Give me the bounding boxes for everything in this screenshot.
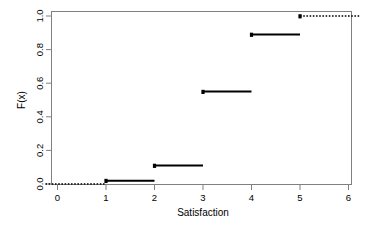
y-tick-4: 0.8 [34,43,52,56]
ecdf-jump-point [153,164,156,168]
ecdf-plot-figure: 0.0 0.2 0.4 0.6 0.8 1.0 [0,0,366,228]
y-tick-1: 0.2 [34,144,52,157]
ecdf-chart-canvas: 0.0 0.2 0.4 0.6 0.8 1.0 [0,0,366,228]
y-tick-label: 0.6 [34,77,45,90]
y-tick-label: 0.2 [34,144,45,157]
x-tick-1: 1 [103,185,108,204]
y-axis-title: F(x) [16,91,27,109]
x-tick-5: 5 [297,185,302,204]
y-tick-2: 0.4 [34,110,52,123]
x-axis: 0 1 2 3 4 5 6 [55,185,351,204]
plot-panel-border [52,12,352,185]
x-tick-label: 2 [152,192,157,203]
x-tick-label: 6 [346,192,351,203]
y-tick-label: 0.0 [34,177,45,190]
x-tick-4: 4 [249,185,254,204]
ecdf-jump-point [298,14,301,18]
x-axis-title: Satisfaction [177,207,229,218]
y-tick-label: 0.4 [34,110,45,123]
x-tick-2: 2 [152,185,157,204]
y-tick-label: 1.0 [34,9,45,22]
y-axis: 0.0 0.2 0.4 0.6 0.8 1.0 [34,9,52,190]
y-tick-3: 0.6 [34,77,52,90]
x-tick-3: 3 [200,185,205,204]
ecdf-step-series [45,14,360,184]
x-tick-label: 3 [200,192,205,203]
ecdf-jump-point [104,179,107,183]
x-tick-0: 0 [55,185,60,204]
x-tick-label: 1 [103,192,108,203]
x-tick-label: 0 [55,192,60,203]
x-tick-label: 4 [249,192,254,203]
ecdf-jump-point [201,90,204,94]
x-tick-label: 5 [297,192,302,203]
ecdf-jump-point [250,33,253,37]
y-tick-label: 0.8 [34,43,45,56]
y-tick-5: 1.0 [34,9,52,22]
x-tick-6: 6 [346,185,351,204]
